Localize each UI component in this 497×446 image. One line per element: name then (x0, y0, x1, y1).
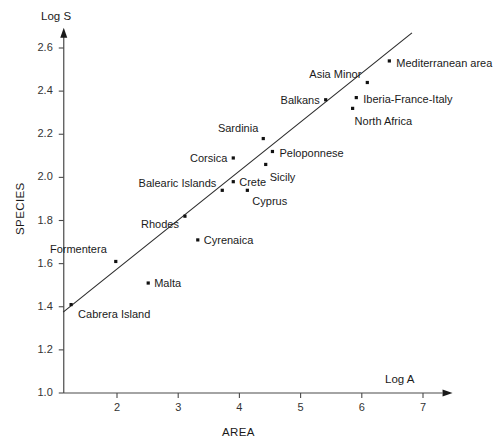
point-label: Malta (154, 278, 181, 289)
y-tick-label: 1.8 (37, 215, 52, 226)
data-point (324, 98, 327, 101)
data-point (183, 215, 186, 218)
x-tick-label: 5 (298, 402, 304, 413)
point-label: Cyrenaica (204, 235, 254, 246)
y-tick-label: 2.4 (37, 85, 52, 96)
data-point (114, 260, 117, 263)
point-label: Sardinia (218, 123, 258, 134)
x-tick-label: 7 (420, 402, 426, 413)
data-point (355, 96, 358, 99)
point-label: North Africa (355, 116, 412, 127)
data-point (147, 281, 150, 284)
point-label: Balkans (281, 95, 320, 106)
data-point (366, 81, 369, 84)
data-point (70, 303, 73, 306)
x-axis-title: AREA (222, 427, 255, 439)
species-area-scatter-figure: 1.01.21.41.61.82.02.22.42.6234567Cabrera… (0, 0, 497, 446)
y-tick-label: 1.2 (37, 344, 52, 355)
data-point (351, 107, 354, 110)
data-points-group (70, 59, 391, 306)
point-label: Corsica (190, 153, 227, 164)
data-point (264, 163, 267, 166)
data-point (271, 150, 274, 153)
point-label: Cabrera Island (78, 309, 150, 320)
point-label: Peloponnese (279, 148, 343, 159)
point-label: Rhodes (141, 219, 179, 230)
y-tick-label: 1.6 (37, 258, 52, 269)
y-tick-label: 2.6 (37, 42, 52, 53)
y-axis-symbol-label: Log S (41, 11, 71, 23)
point-label: Asia Minor (309, 69, 361, 80)
x-axis-symbol-label: Log A (385, 374, 414, 386)
point-label: Formentera (50, 244, 107, 255)
x-tick-label: 6 (359, 402, 365, 413)
data-point (388, 59, 391, 62)
data-point (232, 156, 235, 159)
x-tick-label: 3 (175, 402, 181, 413)
y-tick-label: 2.2 (37, 128, 52, 139)
y-tick-label: 1.0 (37, 387, 52, 398)
point-label: Balearic Islands (139, 178, 217, 189)
data-point (262, 137, 265, 140)
point-label: Crete (239, 177, 266, 188)
x-tick-label: 4 (236, 402, 242, 413)
y-tick-label: 2.0 (37, 171, 52, 182)
data-point (221, 189, 224, 192)
x-tick-label: 2 (114, 402, 120, 413)
y-axis-title: SPECIES (14, 182, 26, 235)
point-label: Cyprus (252, 196, 287, 207)
data-point (196, 238, 199, 241)
data-point (246, 189, 249, 192)
point-label: Iberia-France-Italy (363, 94, 452, 105)
y-tick-label: 1.4 (37, 301, 52, 312)
point-label: Sicily (270, 172, 296, 183)
axes-group (59, 28, 453, 398)
data-point (232, 180, 235, 183)
point-label: Mediterranean area (396, 58, 492, 69)
